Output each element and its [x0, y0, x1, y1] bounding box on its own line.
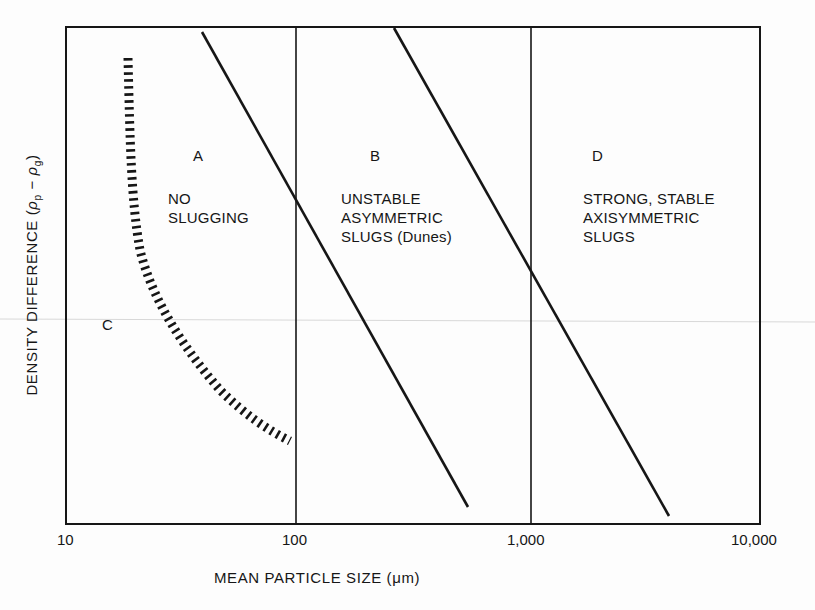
region-d-line: SLUGS — [583, 227, 715, 246]
region-d-label: STRONG, STABLE AXISYMMETRIC SLUGS — [583, 189, 715, 246]
region-d-line: AXISYMMETRIC — [583, 208, 715, 227]
chart-canvas — [0, 0, 815, 610]
y-axis-label: DENSITY DIFFERENCE (ρp − ρg) — [23, 154, 43, 395]
scan-artifact-line — [0, 319, 815, 322]
boundary-hatched-ac — [128, 58, 290, 441]
region-a-line: SLUGGING — [168, 208, 249, 227]
region-d-line: STRONG, STABLE — [583, 189, 715, 208]
plot-frame — [66, 27, 760, 524]
x-tick-100: 100 — [282, 531, 307, 548]
region-b-line: UNSTABLE — [341, 189, 452, 208]
region-c-letter: C — [102, 315, 113, 334]
region-a-letter: A — [193, 146, 203, 165]
x-axis-label: MEAN PARTICLE SIZE (μm) — [214, 569, 420, 586]
x-tick-1000: 1,000 — [507, 531, 545, 548]
region-b-label: UNSTABLE ASYMMETRIC SLUGS (Dunes) — [341, 189, 452, 246]
x-tick-10000: 10,000 — [731, 531, 777, 548]
region-a-label: NO SLUGGING — [168, 189, 249, 227]
x-tick-10: 10 — [57, 531, 74, 548]
region-b-line: ASYMMETRIC — [341, 208, 452, 227]
boundary-line-ab — [202, 32, 468, 507]
region-a-line: NO — [168, 189, 249, 208]
region-b-line: SLUGS (Dunes) — [341, 227, 452, 246]
region-b-letter: B — [370, 146, 380, 165]
region-d-letter: D — [592, 146, 603, 165]
